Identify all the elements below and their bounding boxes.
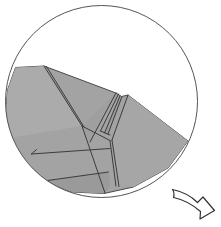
origami-illustration-canvas xyxy=(0,0,221,227)
origami-diagram-figure xyxy=(0,0,221,227)
